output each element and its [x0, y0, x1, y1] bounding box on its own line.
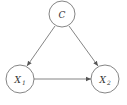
node-x2: X 2 [91, 65, 119, 93]
node-c: C [49, 1, 75, 27]
node-x1-label: X [14, 75, 22, 85]
node-x2-subscript: 2 [106, 79, 111, 86]
node-x1-subscript: 1 [22, 79, 26, 86]
node-c-label: C [59, 10, 66, 20]
node-x1: X 1 [6, 65, 34, 93]
causal-diagram: C X 1 X 2 [0, 0, 127, 105]
edge-c-to-x2 [69, 26, 98, 66]
edge-c-to-x1 [27, 26, 55, 66]
node-x2-label: X [99, 75, 107, 85]
